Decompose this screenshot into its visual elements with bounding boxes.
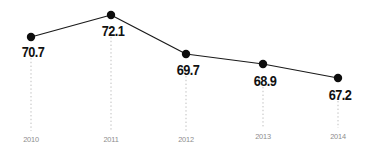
x-axis-tick-label: 2014 [330, 133, 346, 141]
line-chart: 70.772.169.768.967.2 2010201120122013201… [0, 0, 365, 157]
data-value-label: 72.1 [102, 24, 124, 39]
data-point-marker[interactable] [182, 50, 190, 58]
x-axis-tick-label: 2011 [103, 136, 118, 144]
x-axis-tick-label: 2010 [23, 136, 39, 144]
data-value-label: 70.7 [22, 45, 44, 60]
chart-canvas [0, 0, 365, 157]
data-value-label: 69.7 [177, 63, 199, 78]
data-value-label: 68.9 [254, 74, 276, 89]
x-axis-tick-label: 2013 [255, 133, 271, 141]
data-point-marker[interactable] [334, 74, 342, 82]
data-point-marker[interactable] [107, 11, 115, 19]
data-point-marker[interactable] [27, 33, 35, 41]
x-axis-tick-label: 2012 [178, 136, 194, 144]
data-value-label: 67.2 [329, 88, 351, 103]
data-point-marker[interactable] [259, 60, 267, 68]
